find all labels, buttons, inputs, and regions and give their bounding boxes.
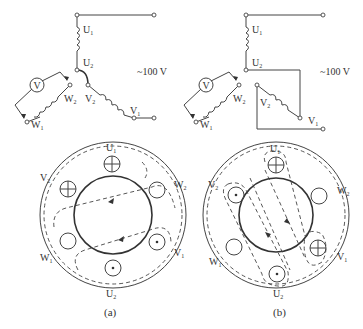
terminal-node (194, 120, 198, 124)
terminal-node (244, 13, 248, 17)
slot-w1-a (60, 233, 76, 249)
terminal-node (255, 83, 259, 87)
winding-diagram: V U1 U2 V2 V1 W2 W1 ~100 V (0, 0, 363, 329)
circle-label-v1-b: V1 (337, 251, 347, 263)
flux-line-upper-a (54, 186, 175, 227)
arrow-icon (118, 236, 124, 242)
terminal-node (321, 13, 325, 17)
voltmeter-lead-bottom-b (184, 89, 201, 118)
label-w1-b: W1 (200, 119, 212, 131)
terminal-node (86, 83, 90, 87)
voltmeter-label-a: V (34, 80, 42, 91)
label-w2-b: W2 (233, 93, 245, 105)
voltmeter-lead-bottom-a (15, 89, 32, 118)
dot-icon (235, 194, 238, 197)
terminal-node (75, 68, 79, 72)
arrow-icon (108, 198, 114, 204)
rotor-b (239, 178, 313, 252)
label-u2-b: U2 (252, 57, 262, 69)
dot-icon (276, 273, 279, 276)
circle-label-v1-a: V1 (174, 247, 184, 259)
circle-label-u2-b: U2 (273, 288, 283, 300)
terminal-node (321, 127, 325, 131)
supply-voltage-b: ~100 V (320, 66, 351, 77)
label-v1-b: V1 (308, 115, 318, 127)
jumper-u2-v2-a (77, 70, 88, 85)
label-w2-a: W2 (64, 93, 76, 105)
terminal-node (152, 13, 156, 17)
label-u1-a: U1 (83, 24, 93, 36)
voltmeter-lead-top-b (211, 72, 236, 81)
probe-arrow-icon (233, 76, 238, 81)
coil-w-a (34, 97, 58, 117)
dot-icon (112, 267, 115, 270)
probe-arrow-icon (190, 114, 195, 119)
jumper-u2-v1-b (246, 70, 300, 118)
flux-path-outer-a (44, 146, 182, 284)
wire (257, 85, 270, 95)
circuit-a: V U1 U2 V2 V1 W2 W1 ~100 V (15, 13, 168, 131)
supply-voltage-a: ~100 V (137, 66, 168, 77)
circle-label-u1-a: U1 (106, 142, 116, 154)
circle-label-v2-b: V2 (208, 179, 218, 191)
terminal-node (152, 116, 156, 120)
terminal-node (68, 83, 72, 87)
circle-label-w1-b: W1 (209, 256, 221, 268)
probe-arrow-icon (21, 114, 26, 119)
coil-u-a (77, 27, 80, 51)
circle-label-v2-a: V2 (40, 172, 50, 184)
slot-w2-b (311, 188, 327, 204)
flux-loop-a (142, 162, 147, 178)
coil-u-b (246, 27, 249, 51)
rotor-a (74, 176, 152, 254)
coil-v-b (270, 95, 288, 110)
voltmeter-lead-top-a (42, 72, 67, 81)
terminal-node (298, 116, 302, 120)
circle-label-w2-b: W2 (337, 185, 349, 197)
flux-loop-left-b (223, 183, 288, 286)
terminal-node (244, 68, 248, 72)
probe-arrow-icon (64, 76, 69, 81)
stator-b: U1 V2 W2 W1 V1 U2 (b) (203, 142, 349, 319)
slot-w2-a (149, 182, 165, 198)
caption-a: (a) (104, 306, 117, 319)
label-v2-a: V2 (85, 93, 95, 105)
stator-a: U1 V2 W2 W1 V1 U2 (a) (40, 142, 186, 319)
label-v2-b: V2 (260, 97, 270, 109)
terminal-node (237, 83, 241, 87)
terminal-node (25, 120, 29, 124)
terminal-node (132, 116, 136, 120)
label-v1-a: V1 (130, 105, 140, 117)
slot-w1-b (226, 239, 242, 255)
circle-label-u1-b: U1 (270, 143, 280, 155)
label-w1-a: W1 (31, 119, 43, 131)
circle-label-w2-a: W2 (174, 179, 186, 191)
circle-label-u2-a: U2 (106, 288, 116, 300)
voltmeter-label-b: V (203, 80, 211, 91)
label-u1-b: U1 (252, 24, 262, 36)
circuit-b: V U1 U2 V2 V1 W2 W1 ~100 V (184, 13, 351, 131)
caption-b: (b) (273, 306, 286, 319)
coil-w-b (203, 97, 227, 117)
terminal-node (75, 13, 79, 17)
flux-line-b (250, 178, 290, 270)
dot-icon (156, 241, 159, 244)
arrow-icon (284, 218, 290, 224)
label-u2-a: U2 (83, 57, 93, 69)
coil-v-a (100, 95, 124, 115)
